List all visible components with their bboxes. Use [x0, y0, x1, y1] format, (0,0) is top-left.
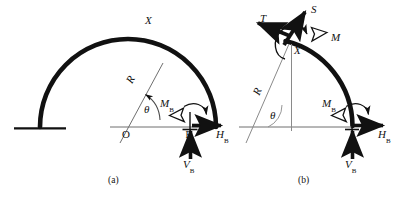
moment-b-curl-a [184, 104, 207, 115]
reaction-label-vb-b: VB [345, 159, 356, 173]
moment-label-mb-a-main: M [160, 97, 169, 109]
reaction-label-vb-a-main: V [183, 158, 190, 170]
moment-label-mb-a: MB [160, 98, 174, 112]
reaction-label-vb-b-main: V [345, 158, 352, 170]
tangential-force-label-t-b: T [260, 13, 266, 24]
moment-label-mb-b-sub: B [331, 106, 336, 114]
panel-a [14, 39, 221, 159]
reaction-label-hb-b: HB [378, 129, 391, 143]
support-label-b-a: B [186, 131, 192, 141]
moment-label-mb-b-main: M [322, 97, 331, 109]
reaction-label-vb-b-sub: B [352, 167, 357, 175]
radius-line-b [246, 44, 289, 143]
reaction-label-hb-a: HB [216, 129, 229, 143]
panel-caption-a: (a) [108, 176, 119, 186]
figure-root: X R θ O B MB HB VB (a) X R θ T S M MB HB… [0, 0, 394, 197]
moment-label-mb-a-sub: B [169, 106, 174, 114]
section-label-x-a: X [145, 15, 152, 26]
angle-label-theta-b: θ [270, 110, 275, 121]
reaction-label-hb-a-sub: B [224, 137, 229, 145]
panel-b [239, 12, 383, 159]
moment-label-mb-b: MB [322, 98, 336, 112]
reaction-label-vb-a-sub: B [190, 167, 195, 175]
origin-label-a: O [122, 129, 130, 140]
reaction-label-hb-b-sub: B [386, 137, 391, 145]
section-label-x-b: X [294, 45, 301, 56]
reaction-label-hb-b-main: H [378, 128, 386, 140]
shear-force-label-s-b: S [311, 4, 317, 15]
reaction-label-hb-a-main: H [216, 128, 224, 140]
tangential-force-arrow-b[interactable] [258, 23, 290, 36]
angle-label-theta-a: θ [144, 104, 149, 115]
internal-moment-hollow-head-b [312, 28, 328, 42]
internal-moment-label-m-b: M [331, 32, 340, 43]
panel-caption-b: (b) [298, 176, 309, 186]
reaction-label-vb-a: VB [183, 159, 194, 173]
